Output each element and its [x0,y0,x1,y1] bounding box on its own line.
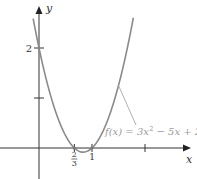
axes [0,6,191,179]
x-axis-arrow [183,145,191,152]
function-label-prefix: f(x) = 3x [104,126,149,137]
y-axis-arrow [36,6,43,14]
labels: xy2312f(x) = 3x2 − 5x + 2 [26,2,197,168]
y-tick-label: 2 [26,43,32,54]
x-axis-label: x [186,153,193,166]
x-tick-label-numerator: 2 [72,150,77,159]
x-tick-label-denominator: 3 [72,159,77,168]
annotation-leader-line [119,86,137,126]
function-label-suffix: − 5x + 2 [153,126,197,137]
x-tick-label: 1 [89,152,95,162]
y-axis-label: y [45,2,53,15]
root-point [90,146,93,149]
function-label: f(x) = 3x2 − 5x + 2 [104,125,197,137]
chart: xy2312f(x) = 3x2 − 5x + 2 [0,0,197,179]
